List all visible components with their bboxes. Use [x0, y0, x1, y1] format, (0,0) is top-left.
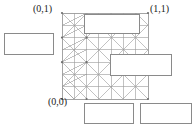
top-callout[interactable]: [84, 14, 140, 34]
bottom-right-callout[interactable]: [140, 103, 192, 124]
label-top-left: (0,1): [33, 4, 52, 14]
left-callout[interactable]: [4, 33, 54, 55]
middle-right-callout[interactable]: [110, 54, 172, 76]
bottom-left-callout[interactable]: [84, 103, 134, 124]
label-top-right: (1,1): [150, 4, 169, 14]
figure-canvas: (0,1) (1,1) (0,0): [0, 0, 196, 126]
label-bottom-left: (0,0): [48, 97, 67, 107]
